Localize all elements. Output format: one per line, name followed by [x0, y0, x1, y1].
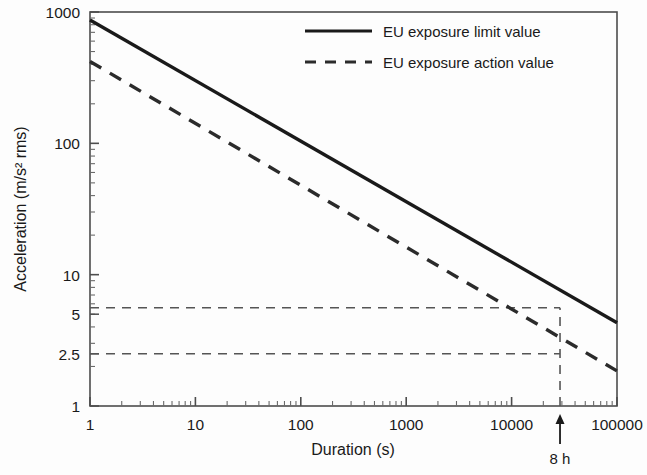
x-axis-ticks	[90, 397, 617, 406]
x-tick-label: 1000	[389, 416, 424, 433]
y-tick-label: 10	[63, 267, 81, 284]
guide-lines	[90, 308, 560, 406]
y-tick-label: 2.5	[58, 346, 80, 363]
y-tick-label: 100	[54, 135, 80, 152]
y-tick-label: 5	[71, 306, 80, 323]
chart-figure: 110100100010000100000 12.55101001000 8 h…	[0, 0, 647, 475]
y-axis-tick-labels: 12.55101001000	[46, 4, 81, 415]
plot-frame	[90, 12, 617, 406]
chart-legend: EU exposure limit value EU exposure acti…	[305, 23, 554, 71]
eight-hour-arrow-head	[556, 414, 565, 424]
y-axis-ticks	[90, 12, 99, 406]
chart-canvas: 110100100010000100000 12.55101001000 8 h…	[0, 0, 647, 475]
legend-label-limit-value: EU exposure limit value	[383, 23, 541, 40]
y-tick-label: 1	[71, 398, 80, 415]
x-tick-label: 1	[86, 416, 95, 433]
eight-hour-annotation: 8 h	[550, 414, 571, 467]
data-series	[90, 20, 617, 371]
x-tick-label: 100	[288, 416, 314, 433]
y-axis-title: Acceleration (m/s² rms)	[12, 126, 29, 291]
x-axis-title: Duration (s)	[311, 441, 395, 458]
series-line	[90, 61, 617, 370]
x-tick-label: 10000	[490, 416, 533, 433]
x-tick-label: 10	[187, 416, 205, 433]
eight-hour-label: 8 h	[550, 450, 571, 467]
legend-label-action-value: EU exposure action value	[383, 54, 554, 71]
y-tick-label: 1000	[46, 4, 81, 21]
x-tick-label: 100000	[591, 416, 643, 433]
